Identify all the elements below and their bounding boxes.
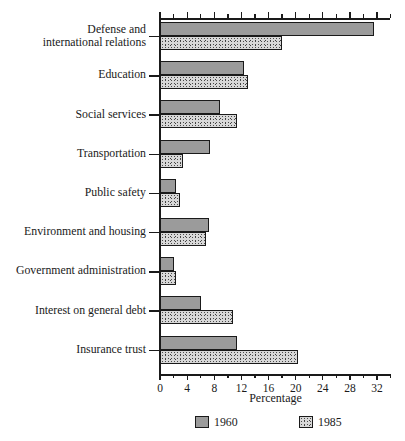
bar-1985 [160,114,237,128]
axis-tick-top-0 [159,12,160,18]
bar-1985 [160,75,248,89]
bar-1985 [160,193,180,207]
axis-tick-bottom-10 [227,374,228,378]
bar-1960 [160,140,210,154]
axis-tick-top-2 [173,14,174,18]
axis-tick-top-26 [336,14,337,18]
axis-tick-bottom-32 [376,374,377,380]
bar-1985 [160,154,183,168]
axis-tick-top-20 [295,12,296,18]
axis-tick-bottom-0 [159,374,160,380]
axis-tick-top-34 [390,14,391,18]
bar-1960 [160,296,201,310]
bar-1985 [160,310,233,324]
bar-1960 [160,218,209,232]
axis-tick-top-32 [376,12,377,18]
category-label: Public safety [0,186,146,200]
x-axis-title: Percentage [160,391,391,406]
legend-label-1960: 1960 [214,416,238,429]
axis-tick-top-14 [254,14,255,18]
category-label: Interest on general debt [0,304,146,318]
axis-tick-bottom-2 [173,374,174,378]
category-connector [149,193,159,194]
category-connector [149,75,159,76]
bar-1985 [160,36,282,50]
category-row: Insurance trust [0,320,159,380]
category-connector [149,271,159,272]
axis-tick-top-16 [268,12,269,18]
legend-item-1960[interactable]: 1960 [195,414,238,430]
category-connector [149,114,159,115]
category-label: Insurance trust [0,343,146,357]
axis-tick-bottom-20 [295,374,296,380]
axis-tick-bottom-16 [268,374,269,380]
axis-tick-bottom-4 [187,374,188,380]
top-axis-line [159,18,390,20]
category-connector [149,310,159,311]
category-connector [149,232,159,233]
bar-1960 [160,100,220,114]
axis-tick-bottom-24 [322,374,323,380]
axis-tick-top-24 [322,12,323,18]
axis-tick-bottom-6 [200,374,201,378]
legend-swatch-1985 [299,416,313,428]
legend-item-1985[interactable]: 1985 [299,414,342,430]
category-connector [149,154,159,155]
category-connector [149,350,159,351]
bar-1960 [160,257,174,271]
axis-tick-bottom-28 [349,374,350,380]
bar-1985 [160,271,176,285]
axis-tick-top-4 [187,12,188,18]
axis-tick-top-30 [363,14,364,18]
bar-1960 [160,61,244,75]
bar-chart-figure: 048121620242832 Defense and internationa… [0,0,405,441]
axis-tick-bottom-22 [309,374,310,378]
legend-label-1985: 1985 [318,416,342,429]
bar-1985 [160,232,206,246]
axis-tick-top-28 [349,12,350,18]
bar-1960 [160,22,374,36]
category-label: Social services [0,108,146,122]
bar-1985 [160,350,298,364]
bar-1960 [160,179,176,193]
category-connector [149,36,159,37]
chart-legend: 1960 1985 [160,414,405,432]
category-label: Transportation [0,147,146,161]
category-label: Environment and housing [0,225,146,239]
axis-tick-bottom-26 [336,374,337,378]
axis-tick-top-12 [241,12,242,18]
axis-tick-top-6 [200,14,201,18]
x-axis-line [159,374,390,376]
axis-tick-top-22 [309,14,310,18]
plot-area: 048121620242832 Defense and internationa… [0,0,405,441]
axis-tick-bottom-34 [390,374,391,378]
legend-swatch-1960 [195,416,209,428]
axis-tick-top-10 [227,14,228,18]
category-label: Education [0,68,146,82]
axis-tick-bottom-14 [254,374,255,378]
axis-tick-top-18 [281,14,282,18]
bar-1960 [160,336,237,350]
axis-tick-bottom-8 [214,374,215,380]
axis-tick-bottom-30 [363,374,364,378]
category-label: Government administration [0,264,146,278]
axis-tick-bottom-18 [281,374,282,378]
axis-tick-top-8 [214,12,215,18]
axis-tick-bottom-12 [241,374,242,380]
